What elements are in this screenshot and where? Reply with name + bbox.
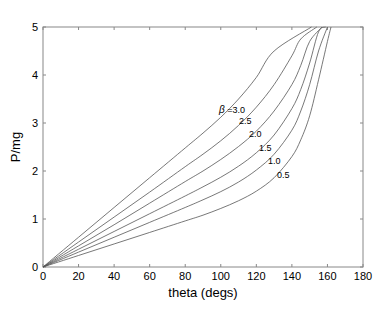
y-tick-label: 5	[32, 21, 38, 33]
curve-label: 1.0	[268, 156, 281, 166]
x-tick-labels: 020406080100120140160180	[40, 270, 372, 282]
x-tick-label: 180	[354, 270, 372, 282]
y-tick-label: 3	[32, 117, 38, 129]
x-tick-label: 40	[108, 270, 120, 282]
x-axis-label: theta (degs)	[168, 285, 237, 300]
y-tick-label: 4	[32, 69, 38, 81]
x-tick-label: 0	[40, 270, 46, 282]
curve-label: 1.5	[259, 143, 272, 153]
curve-label: β =3.0	[218, 104, 245, 115]
x-tick-label: 100	[212, 270, 230, 282]
x-tick-label: 20	[72, 270, 84, 282]
curve-label: 0.5	[277, 170, 290, 180]
chart: 020406080100120140160180 012345 β =3.02.…	[0, 0, 389, 311]
y-tick-label: 1	[32, 213, 38, 225]
y-axis-label: P/mg	[8, 132, 23, 162]
y-tick-label: 2	[32, 165, 38, 177]
x-tick-label: 60	[144, 270, 156, 282]
x-tick-label: 140	[283, 270, 301, 282]
y-tick-labels: 012345	[32, 21, 38, 273]
curve-label: 2.5	[239, 116, 252, 126]
x-tick-label: 160	[318, 270, 336, 282]
curve-label: 2.0	[249, 129, 262, 139]
x-tick-label: 80	[179, 270, 191, 282]
y-tick-label: 0	[32, 261, 38, 273]
x-tick-label: 120	[247, 270, 265, 282]
